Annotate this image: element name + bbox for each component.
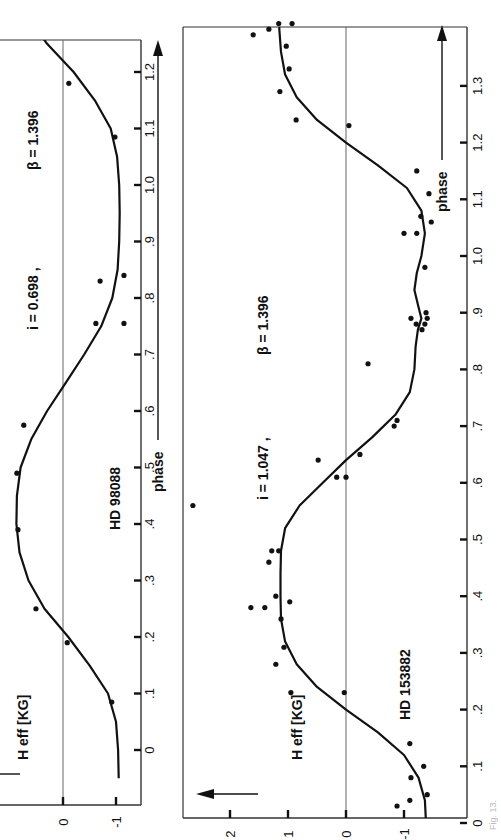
phase-tick-label: .9 xyxy=(470,307,485,318)
heff-tick-label: -1 xyxy=(109,816,124,828)
data-point xyxy=(251,32,256,37)
phase-tick-label: 1.1 xyxy=(470,190,485,208)
data-point xyxy=(425,316,430,321)
data-point xyxy=(98,278,103,283)
data-point xyxy=(266,27,271,32)
data-point xyxy=(394,418,399,423)
phase-tick-label: 0 xyxy=(470,819,485,826)
data-point xyxy=(21,423,26,428)
data-point xyxy=(342,690,347,695)
data-point xyxy=(276,21,281,26)
data-point xyxy=(121,273,126,278)
phase-tick-label: 1.2 xyxy=(142,63,157,81)
phase-tick-label: 1.0 xyxy=(470,247,485,265)
heff-tick-label: -1 xyxy=(397,828,412,840)
phase-tick-label: .8 xyxy=(142,293,157,304)
phase-tick-label: .3 xyxy=(470,647,485,658)
inclination-label: i = 0.698 , xyxy=(25,267,41,330)
data-point xyxy=(423,310,428,315)
figure-caption: Fig. 13. xyxy=(488,770,500,830)
data-point xyxy=(408,316,413,321)
data-point xyxy=(394,803,399,808)
data-point xyxy=(343,475,348,480)
panel-hd153882: 0.1.2.3.4.5.6.7.8.91.01.11.21.3210-1HD 1… xyxy=(183,18,485,840)
data-point xyxy=(65,640,70,645)
data-point xyxy=(414,231,419,236)
data-point xyxy=(15,527,20,532)
data-point xyxy=(276,548,281,553)
data-point xyxy=(14,471,19,476)
data-point xyxy=(281,645,286,650)
data-point xyxy=(401,231,406,236)
phase-tick-label: .7 xyxy=(470,421,485,432)
phase-tick-label: .8 xyxy=(470,364,485,375)
phase-tick-label: .2 xyxy=(470,704,485,715)
data-point xyxy=(407,798,412,803)
panel-hd98088: 0.1.2.3.4.5.6.7.8.91.01.11.20-1HD 98088i… xyxy=(0,33,166,828)
star-name-label: HD 98088 xyxy=(107,467,123,530)
data-point xyxy=(288,690,293,695)
phase-tick-label: .4 xyxy=(470,591,485,602)
heff-tick-label: 0 xyxy=(339,830,354,837)
data-point xyxy=(93,321,98,326)
data-point xyxy=(273,662,278,667)
phase-tick-label: .6 xyxy=(142,406,157,417)
data-point xyxy=(289,21,294,26)
heff-tick-label: 2 xyxy=(223,830,238,837)
phase-axis-label: phase xyxy=(434,171,450,212)
phase-tick-label: .1 xyxy=(470,761,485,772)
data-point xyxy=(346,123,351,128)
beta-label: β = 1.396 xyxy=(255,295,271,355)
data-point xyxy=(334,475,339,480)
data-point xyxy=(294,117,299,122)
phase-tick-label: 1.1 xyxy=(142,119,157,137)
data-point xyxy=(278,616,283,621)
data-point xyxy=(121,321,126,326)
heff-axis-label: H eff [KG] xyxy=(15,695,31,760)
data-point xyxy=(414,168,419,173)
phase-axis-label: phase xyxy=(150,451,166,492)
star-name-label: HD 153882 xyxy=(397,649,413,720)
data-point xyxy=(365,361,370,366)
phase-tick-label: .4 xyxy=(142,519,157,530)
data-point xyxy=(425,792,430,797)
data-point xyxy=(422,321,427,326)
data-point xyxy=(414,321,419,326)
data-point xyxy=(109,699,114,704)
data-point xyxy=(422,265,427,270)
data-point xyxy=(248,605,253,610)
data-point xyxy=(33,606,38,611)
data-point xyxy=(408,775,413,780)
phase-tick-label: .7 xyxy=(142,349,157,360)
phase-arrow-head-icon xyxy=(153,40,163,56)
data-point xyxy=(316,458,321,463)
data-point xyxy=(392,424,397,429)
phase-tick-label: .3 xyxy=(142,575,157,586)
data-point xyxy=(419,327,424,332)
data-point xyxy=(407,741,412,746)
data-point xyxy=(287,66,292,71)
phase-tick-label: .6 xyxy=(470,477,485,488)
data-point xyxy=(266,560,271,565)
data-point xyxy=(273,594,278,599)
phase-tick-label: 0 xyxy=(142,746,157,753)
data-point xyxy=(262,605,267,610)
phase-tick-label: 1.3 xyxy=(470,77,485,95)
heff-tick-label: 1 xyxy=(281,830,296,837)
phase-tick-label: 1.2 xyxy=(470,134,485,152)
data-point xyxy=(287,599,292,604)
beta-label: β = 1.396 xyxy=(25,110,41,170)
data-point xyxy=(421,764,426,769)
data-point xyxy=(284,44,289,49)
data-point xyxy=(190,503,195,508)
heff-tick-label: 0 xyxy=(56,818,71,825)
data-point xyxy=(426,191,431,196)
heff-axis-label: H eff [KG] xyxy=(289,695,305,760)
phase-tick-label: .2 xyxy=(142,632,157,643)
data-point xyxy=(269,548,274,553)
data-point xyxy=(357,452,362,457)
figure-canvas: 0.1.2.3.4.5.6.7.8.91.01.11.20-1HD 98088i… xyxy=(0,0,501,840)
phase-tick-label: .9 xyxy=(142,236,157,247)
data-point xyxy=(277,89,282,94)
phase-tick-label: .5 xyxy=(470,534,485,545)
